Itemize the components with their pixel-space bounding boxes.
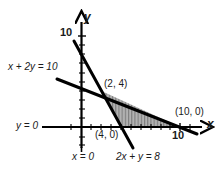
vertex-label-2-4: (2, 4) xyxy=(104,79,127,89)
y-axis-label: y xyxy=(84,11,91,23)
plot-canvas xyxy=(0,0,221,180)
line-label-2x-plus-y-8: 2x + y = 8 xyxy=(116,152,160,162)
y-tick-label-10: 10 xyxy=(60,27,72,38)
graph-figure: y x 10 10 x + 2y = 10 2x + y = 8 y = 0 x… xyxy=(0,0,221,180)
vertex-label-4-0: (4, 0) xyxy=(95,130,118,140)
vertex-label-10-0: (10, 0) xyxy=(175,107,204,117)
constraint-label-y-equals-0: y = 0 xyxy=(16,121,38,131)
line-label-x-plus-2y-10: x + 2y = 10 xyxy=(8,62,57,72)
x-tick-label-10: 10 xyxy=(172,130,184,141)
axis-y xyxy=(78,22,86,148)
x-axis-label: x xyxy=(207,118,214,130)
constraint-label-x-equals-0: x = 0 xyxy=(72,152,94,162)
